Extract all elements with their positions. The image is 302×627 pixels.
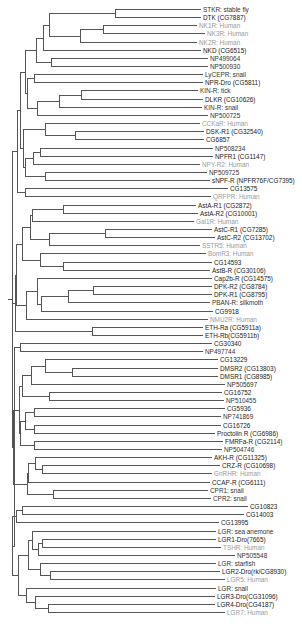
branch-horizontal — [63, 270, 210, 271]
tree-leaf-label: DLKR (CG10626) — [205, 96, 255, 103]
branch-vertical — [59, 95, 60, 108]
branch-horizontal — [51, 66, 208, 67]
branch-horizontal — [103, 25, 197, 26]
branch-horizontal — [63, 213, 198, 214]
tree-leaf-label: ETH-Ra (CG5911a) — [205, 324, 261, 331]
tree-leaf-label: Gal1R: Human — [196, 218, 238, 225]
tree-leaf-label: BomR3: Human — [208, 250, 253, 257]
tree-leaf-label: LGR: starfish — [218, 560, 255, 567]
branch-horizontal — [49, 36, 80, 37]
tree-leaf-label: NP500725 — [210, 112, 240, 119]
tree-leaf-label: NP508234 — [215, 145, 245, 152]
branch-vertical — [68, 290, 69, 303]
branch-vertical — [20, 343, 21, 352]
tree-leaf-label: NP505697 — [227, 381, 257, 388]
branch-horizontal — [75, 131, 204, 132]
branch-vertical — [40, 148, 41, 157]
branch-horizontal — [115, 17, 201, 18]
branch-horizontal — [32, 531, 216, 532]
branch-horizontal — [27, 494, 53, 495]
branch-horizontal — [72, 376, 218, 377]
branch-vertical — [22, 375, 23, 397]
branch-vertical — [72, 368, 73, 377]
branch-horizontal — [42, 473, 212, 474]
branch-horizontal — [92, 335, 203, 336]
tree-leaf-label: NPR-Dro (CG5811) — [205, 79, 260, 86]
branch-horizontal — [36, 62, 51, 63]
branch-horizontal — [45, 172, 207, 173]
tree-leaf-label: CG5936 — [227, 405, 251, 412]
branch-horizontal — [17, 192, 25, 193]
branch-vertical — [14, 347, 15, 547]
branch-horizontal — [34, 433, 215, 434]
branch-vertical — [32, 531, 33, 550]
tree-leaf-label: NP509725 — [209, 169, 239, 176]
branch-vertical — [22, 227, 23, 261]
branch-horizontal — [30, 239, 49, 240]
branch-horizontal — [81, 90, 198, 91]
tree-leaf-label: LGR: snail — [218, 585, 248, 592]
branch-horizontal — [53, 490, 208, 491]
branch-vertical — [26, 291, 27, 320]
branch-horizontal — [45, 123, 200, 124]
tree-leaf-label: CG13575 — [230, 185, 257, 192]
branch-vertical — [20, 72, 21, 149]
branch-horizontal — [34, 408, 225, 409]
branch-horizontal — [40, 148, 213, 149]
branch-vertical — [22, 506, 23, 515]
tree-leaf-label: CG30340 — [214, 340, 241, 347]
branch-horizontal — [15, 331, 26, 332]
tree-leaf-label: LGR: sea anemone — [218, 528, 273, 535]
branch-horizontal — [25, 158, 33, 159]
branch-horizontal — [28, 482, 210, 483]
branch-vertical — [26, 588, 27, 603]
branch-vertical — [28, 540, 29, 570]
branch-horizontal — [28, 463, 35, 464]
branch-vertical — [31, 366, 32, 385]
tree-leaf-label: CG14593 — [214, 259, 241, 266]
branch-horizontal — [53, 498, 211, 499]
branch-vertical — [27, 473, 28, 495]
tree-leaf-label: CG10823 — [250, 503, 277, 510]
branch-horizontal — [35, 608, 48, 609]
branch-vertical — [45, 359, 46, 373]
branch-horizontal — [49, 13, 115, 14]
branch-horizontal — [13, 484, 27, 485]
branch-horizontal — [59, 95, 81, 96]
tree-leaf-label: LyCEPR: snail — [205, 71, 246, 78]
branch-vertical — [48, 604, 49, 613]
branch-vertical — [27, 78, 28, 109]
branch-horizontal — [80, 29, 103, 30]
branch-horizontal — [35, 596, 215, 597]
branch-horizontal — [42, 465, 220, 466]
branch-vertical — [16, 510, 17, 523]
branch-vertical — [50, 571, 51, 580]
tree-leaf-label: LGR7: Human — [227, 609, 268, 616]
branch-vertical — [41, 296, 42, 312]
phylogenetic-tree: STKR: stable flyDTK (CG7887)NK1R: HumanN… — [0, 0, 302, 627]
branch-horizontal — [92, 327, 203, 328]
tree-leaf-label: STKR: stable fly — [203, 6, 249, 13]
branch-horizontal — [35, 469, 42, 470]
tree-leaf-label: PBAN-R: silkmoth — [212, 299, 263, 306]
branch-horizontal — [40, 156, 213, 157]
branch-horizontal — [32, 209, 63, 210]
branch-vertical — [40, 563, 41, 576]
tree-leaf-label: NP505548 — [237, 552, 267, 559]
branch-vertical — [40, 253, 41, 267]
tree-leaf-label: CG13229 — [220, 356, 247, 363]
branch-vertical — [45, 172, 46, 181]
tree-leaf-label: LGR1-Dro(7665) — [218, 536, 266, 543]
tree-leaf-label: DPK-R2 (CG8784) — [214, 283, 267, 290]
tree-leaf-label: NK1R: Human — [199, 22, 240, 29]
branch-horizontal — [42, 539, 216, 540]
branch-horizontal — [23, 129, 45, 130]
tree-leaf-label: ETH-Rb(CG5911b) — [205, 332, 259, 339]
tree-leaf-label: Proctolin R (CG6986) — [217, 430, 278, 437]
branch-horizontal — [26, 331, 92, 332]
tree-leaf-label: CG14003 — [246, 511, 273, 518]
branch-vertical — [23, 129, 24, 168]
branch-horizontal — [22, 375, 31, 376]
branch-horizontal — [40, 563, 216, 564]
tree-leaf-label: NPY-R2: Human — [202, 161, 249, 168]
